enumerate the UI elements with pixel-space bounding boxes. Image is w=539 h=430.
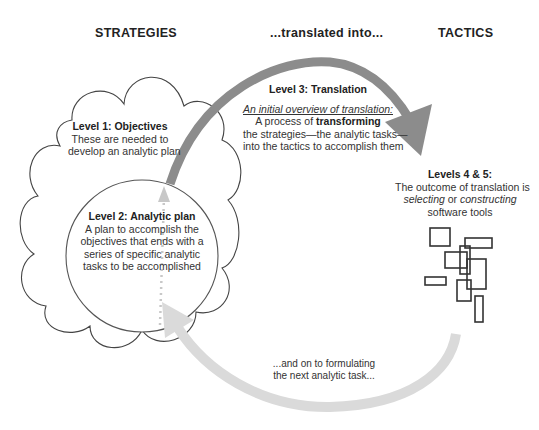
- levels45-constructing: constructing: [460, 193, 517, 205]
- level1-block: Level 1: Objectives These are needed to …: [68, 120, 172, 158]
- levels45-selecting: selecting: [403, 193, 444, 205]
- level2-title: Level 2: Analytic plan: [80, 210, 204, 223]
- level3-line1: A process of transforming: [243, 115, 393, 128]
- level3-line1-prefix: A process of: [255, 115, 316, 127]
- levels45-title: Levels 4 & 5:: [395, 168, 525, 181]
- level2-line: tasks to be accomplished: [80, 260, 204, 273]
- software-tools-icon: [425, 228, 492, 322]
- loop-back-line: the next analytic task...: [264, 370, 384, 382]
- level2-line: series of specific analytic: [80, 248, 204, 261]
- loop-back-block: ...and on to formulating the next analyt…: [264, 358, 384, 382]
- level3-title: Level 3: Translation: [243, 83, 393, 96]
- header-tactics: TACTICS: [438, 26, 493, 40]
- level1-line: develop an analytic plan: [68, 145, 172, 158]
- levels45-line1: The outcome of translation is: [395, 181, 525, 194]
- header-strategies: STRATEGIES: [95, 26, 177, 40]
- levels45-line2: selecting or constructing: [395, 193, 525, 206]
- level3-overview: An initial overview of translation:: [243, 103, 393, 116]
- level3-line3: into the tactics to accomplish them: [243, 140, 393, 153]
- level2-line: objectives that ends with a: [80, 235, 204, 248]
- levels45-or: or: [445, 193, 460, 205]
- level1-title: Level 1: Objectives: [68, 120, 172, 133]
- header-translated-into: ...translated into...: [270, 26, 383, 40]
- levels45-block: Levels 4 & 5: The outcome of translation…: [395, 168, 525, 218]
- level3-line1-bold: transforming: [316, 115, 381, 127]
- level3-line2: the strategies—the analytic tasks—: [243, 128, 393, 141]
- level3-block: Level 3: Translation An initial overview…: [243, 83, 393, 153]
- levels45-line3: software tools: [395, 206, 525, 219]
- level2-line: A plan to accomplish the: [80, 223, 204, 236]
- loop-back-line: ...and on to formulating: [264, 358, 384, 370]
- level1-line: These are needed to: [68, 133, 172, 146]
- level2-block: Level 2: Analytic plan A plan to accompl…: [80, 210, 204, 273]
